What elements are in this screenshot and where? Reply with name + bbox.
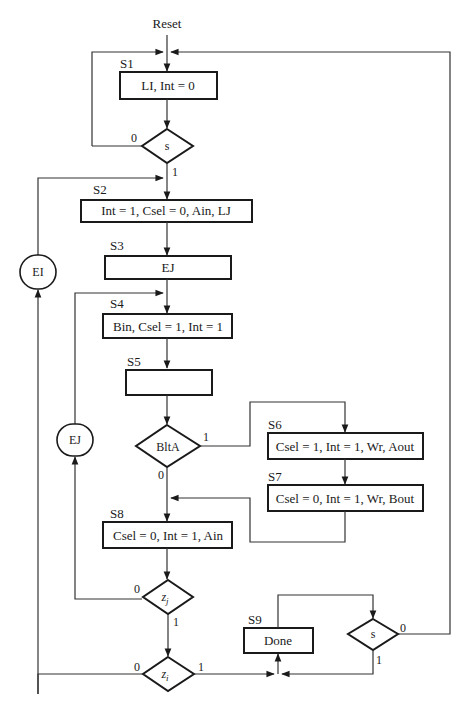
flowchart: Reset S1 LI, Int = 0 s 0 1 EI S2 Int = 1… (0, 0, 469, 713)
state-s2-actions: Int = 1, Csel = 0, Ain, LJ (101, 203, 231, 218)
decision-bltA-cond: BltA (156, 440, 180, 454)
state-s4-label: S4 (110, 296, 124, 311)
ej-to-s4-arrow (75, 293, 163, 424)
decision-s-top-zero: 0 (131, 131, 137, 145)
state-s9-label: S9 (248, 612, 262, 627)
state-s6-actions: Csel = 1, Int = 1, Wr, Aout (276, 439, 415, 454)
decision-zi-one: 1 (198, 660, 204, 674)
state-s1-label: S1 (120, 56, 134, 71)
state-s5-box (126, 370, 212, 395)
state-s8-label: S8 (110, 506, 124, 521)
decision-s-top-cond: s (165, 139, 170, 153)
decision-zi-zero: 0 (134, 660, 140, 674)
conditional-output-ei-label: EI (32, 265, 43, 279)
decision-s-bottom-one: 1 (376, 653, 382, 667)
state-s9-actions: Done (264, 633, 292, 648)
state-s2-label: S2 (93, 182, 107, 197)
state-s6-label: S6 (268, 417, 282, 432)
reset-label: Reset (153, 16, 182, 31)
decision-s-top-one: 1 (172, 165, 178, 179)
state-s3-actions: EJ (162, 260, 175, 275)
state-s1-actions: LI, Int = 0 (141, 78, 195, 93)
done-to-s-arrow (278, 595, 373, 628)
decision-s-bottom-zero: 0 (400, 621, 406, 635)
decision-zj-zero: 0 (134, 582, 140, 596)
state-s5-label: S5 (127, 354, 141, 369)
decision-bltA-one: 1 (203, 430, 209, 444)
state-s4-actions: Bin, Csel = 1, Int = 1 (113, 319, 223, 334)
state-s8-actions: Csel = 0, Int = 1, Ain (113, 528, 223, 543)
decision-bltA-zero: 0 (158, 468, 164, 482)
decision-s-bottom-cond: s (371, 627, 376, 641)
conditional-output-ej-label: EJ (69, 433, 81, 447)
state-s7-label: S7 (268, 469, 282, 484)
state-s3-label: S3 (110, 238, 124, 253)
state-s7-actions: Csel = 0, Int = 1, Wr, Bout (276, 491, 415, 506)
zi-zero-line (38, 674, 143, 694)
decision-zj-one: 1 (173, 615, 179, 629)
